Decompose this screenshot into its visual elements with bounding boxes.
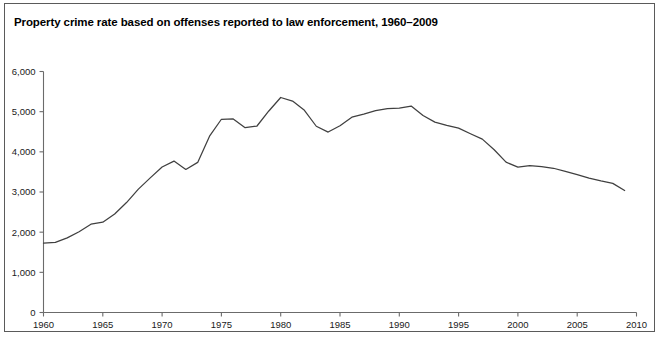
y-tick-label: 4,000 <box>12 146 36 157</box>
y-tick-label: 5,000 <box>12 106 36 117</box>
x-tick-label: 1960 <box>33 319 54 330</box>
y-tick-label: 6,000 <box>12 66 36 77</box>
line-chart-plot: 01,0002,0003,0004,0005,0006,000 19601965… <box>0 0 659 337</box>
y-axis: 01,0002,0003,0004,0005,0006,000 <box>12 66 44 318</box>
y-tick-label: 2,000 <box>12 227 36 238</box>
x-axis: 1960196519701975198019851990199520002005… <box>33 313 647 330</box>
x-tick-label: 1995 <box>448 319 469 330</box>
x-tick-label: 2005 <box>567 319 588 330</box>
y-tick-label: 0 <box>30 307 35 318</box>
series-line <box>44 97 625 243</box>
x-tick-label: 2000 <box>507 319 528 330</box>
x-tick-label: 1970 <box>152 319 173 330</box>
data-series-group <box>44 97 625 243</box>
x-tick-label: 1980 <box>270 319 291 330</box>
chart-figure: Property crime rate based on offenses re… <box>0 0 659 337</box>
x-tick-label: 1965 <box>92 319 113 330</box>
x-tick-label: 2010 <box>626 319 647 330</box>
y-tick-label: 3,000 <box>12 186 36 197</box>
y-tick-label: 1,000 <box>12 267 36 278</box>
x-tick-label: 1985 <box>329 319 350 330</box>
x-tick-label: 1990 <box>389 319 410 330</box>
x-tick-label: 1975 <box>211 319 232 330</box>
